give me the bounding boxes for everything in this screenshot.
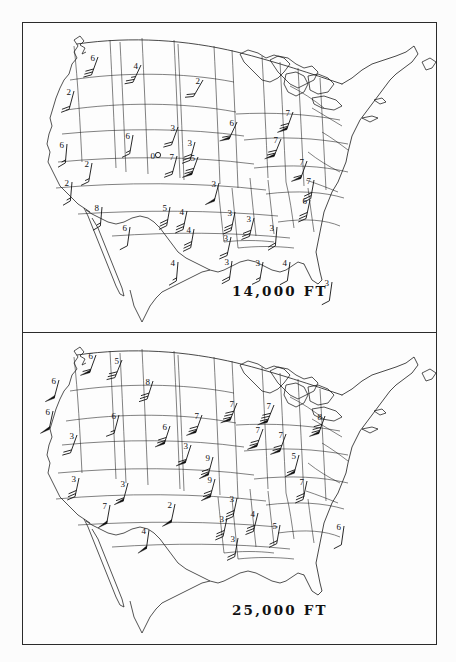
- station-value: 6: [89, 351, 94, 361]
- station-value: 3: [121, 479, 126, 489]
- station-value: 9: [206, 453, 211, 463]
- station-value: 6: [126, 131, 131, 141]
- station-value: 3: [231, 534, 236, 544]
- altitude-label-14000ft: 14,000 FT: [232, 283, 328, 299]
- station-value: 5: [191, 153, 196, 163]
- station-value: 6: [303, 196, 308, 206]
- station-value: 7: [300, 477, 305, 487]
- station-value: 7: [267, 401, 272, 411]
- station-value: 9: [208, 475, 213, 485]
- station-value: 7: [256, 425, 261, 435]
- wind-barbs-14000ft: [58, 57, 332, 305]
- station-value: 7: [103, 501, 108, 511]
- station-value: 7: [274, 135, 279, 145]
- station-value: 6: [230, 118, 235, 128]
- station-value: 4: [142, 526, 147, 536]
- station-value: 3: [224, 233, 229, 243]
- station-value: 5: [273, 521, 278, 531]
- station-value: 3: [228, 208, 233, 218]
- station-labels-14000ft: 6422663677532077327548643363333443: [60, 53, 330, 288]
- wind-chart-page: 6422663677532077327548643363333443 14,00…: [0, 0, 456, 662]
- station-value: 5: [163, 203, 168, 213]
- us-map-25000ft: 658666367778779393327434353765: [22, 333, 437, 643]
- station-value: 4: [134, 61, 139, 71]
- station-value: 4: [171, 258, 176, 268]
- station-value: 3: [230, 494, 235, 504]
- station-value: 7: [286, 108, 291, 118]
- station-value: 6: [91, 53, 96, 63]
- station-value: 0: [151, 151, 156, 161]
- station-value: 6: [60, 140, 65, 150]
- station-value: 3: [247, 214, 252, 224]
- wind-barb: [220, 122, 237, 141]
- station-value: 6: [337, 522, 342, 532]
- station-value: 2: [67, 87, 72, 97]
- station-value: 6: [52, 376, 57, 386]
- station-value: 6: [123, 223, 128, 233]
- station-value: 3: [70, 431, 75, 441]
- map-geography-top: [47, 36, 436, 322]
- station-value: 7: [300, 157, 305, 167]
- station-labels-25000ft: 658666367778779393327434353765: [46, 351, 342, 544]
- station-value: 4: [283, 258, 288, 268]
- station-value: 8: [318, 412, 323, 422]
- map-panel-25000ft: 658666367778779393327434353765: [22, 333, 437, 643]
- station-value: 4: [180, 207, 185, 217]
- station-value: 3: [256, 258, 261, 268]
- station-value: 3: [220, 514, 225, 524]
- station-value: 8: [146, 377, 151, 387]
- station-value: 7: [279, 430, 284, 440]
- station-value: 3: [188, 138, 193, 148]
- station-value: 6: [46, 407, 51, 417]
- station-value: 3: [171, 123, 176, 133]
- station-value: 5: [115, 356, 120, 366]
- station-value: 2: [65, 178, 70, 188]
- map-geography-bottom: [47, 347, 436, 633]
- station-value: 7: [307, 176, 312, 186]
- station-value: 2: [85, 159, 90, 169]
- station-value: 5: [292, 451, 297, 461]
- station-value: 3: [212, 179, 217, 189]
- station-value: 3: [225, 257, 230, 267]
- station-value: 7: [195, 411, 200, 421]
- station-value: 4: [251, 509, 256, 519]
- station-value: 3: [270, 223, 275, 233]
- station-value: 2: [168, 500, 173, 510]
- station-value: 2: [196, 76, 201, 86]
- station-value: 7: [230, 399, 235, 409]
- station-value: 6: [163, 422, 168, 432]
- station-value: 3: [72, 474, 77, 484]
- station-value: 8: [95, 203, 100, 213]
- station-value: 6: [112, 411, 117, 421]
- station-value: 4: [187, 225, 192, 235]
- station-value: 7: [170, 152, 175, 162]
- us-map-14000ft: 6422663677532077327548643363333443: [22, 22, 437, 332]
- map-panel-14000ft: 6422663677532077327548643363333443: [22, 22, 437, 332]
- altitude-label-25000ft: 25,000 FT: [232, 602, 328, 618]
- wind-barb: [185, 80, 203, 97]
- wind-barb: [155, 152, 160, 157]
- station-value: 3: [184, 441, 189, 451]
